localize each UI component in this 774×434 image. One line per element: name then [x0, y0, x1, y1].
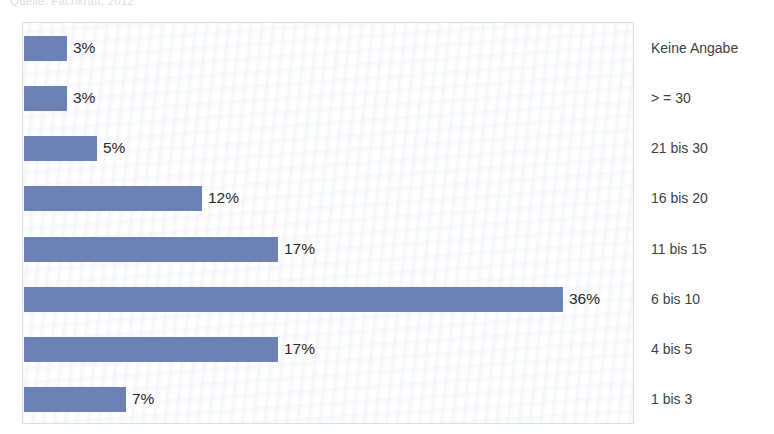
category-label: 16 bis 20 — [651, 186, 708, 211]
bar-value-label: 12% — [208, 185, 239, 210]
bar-value-label: 3% — [73, 85, 95, 110]
bar-value-label: 36% — [569, 286, 600, 311]
bar-track — [24, 186, 634, 211]
table-row: 3% Keine Angabe — [0, 23, 774, 73]
bar-fill[interactable] — [24, 387, 126, 412]
bar-value-label: 3% — [73, 35, 95, 60]
bar-track — [24, 337, 634, 362]
table-row: 7% 1 bis 3 — [0, 374, 774, 424]
bar-track — [24, 86, 634, 111]
bar-track — [24, 237, 634, 262]
category-label: 1 bis 3 — [651, 387, 692, 412]
table-row: 3% > = 30 — [0, 73, 774, 123]
bar-fill[interactable] — [24, 136, 97, 161]
bar-fill[interactable] — [24, 86, 67, 111]
bar-value-label: 7% — [132, 386, 154, 411]
category-label: 11 bis 15 — [651, 237, 707, 262]
bar-rows-container: 3% Keine Angabe 3% > = 30 5% 21 bis 30 1… — [0, 0, 774, 434]
bar-track — [24, 387, 634, 412]
bar-fill[interactable] — [24, 237, 278, 262]
bar-chart-figure: 3% Keine Angabe 3% > = 30 5% 21 bis 30 1… — [0, 0, 774, 434]
category-label: Keine Angabe — [651, 36, 738, 61]
table-row: 36% 6 bis 10 — [0, 274, 774, 324]
bar-track — [24, 287, 634, 312]
bar-fill[interactable] — [24, 36, 67, 61]
table-row: 17% 11 bis 15 — [0, 224, 774, 274]
bar-value-label: 17% — [284, 336, 315, 361]
bar-value-label: 5% — [103, 135, 125, 160]
category-label: 4 bis 5 — [651, 337, 692, 362]
category-label: 21 bis 30 — [651, 136, 708, 161]
bar-fill[interactable] — [24, 337, 278, 362]
bar-fill[interactable] — [24, 186, 202, 211]
bar-fill[interactable] — [24, 287, 563, 312]
bar-track — [24, 36, 634, 61]
category-label: > = 30 — [651, 86, 691, 111]
table-row: 17% 4 bis 5 — [0, 324, 774, 374]
table-row: 5% 21 bis 30 — [0, 123, 774, 173]
table-row: 12% 16 bis 20 — [0, 173, 774, 223]
category-label: 6 bis 10 — [651, 287, 700, 312]
bar-value-label: 17% — [284, 236, 315, 261]
